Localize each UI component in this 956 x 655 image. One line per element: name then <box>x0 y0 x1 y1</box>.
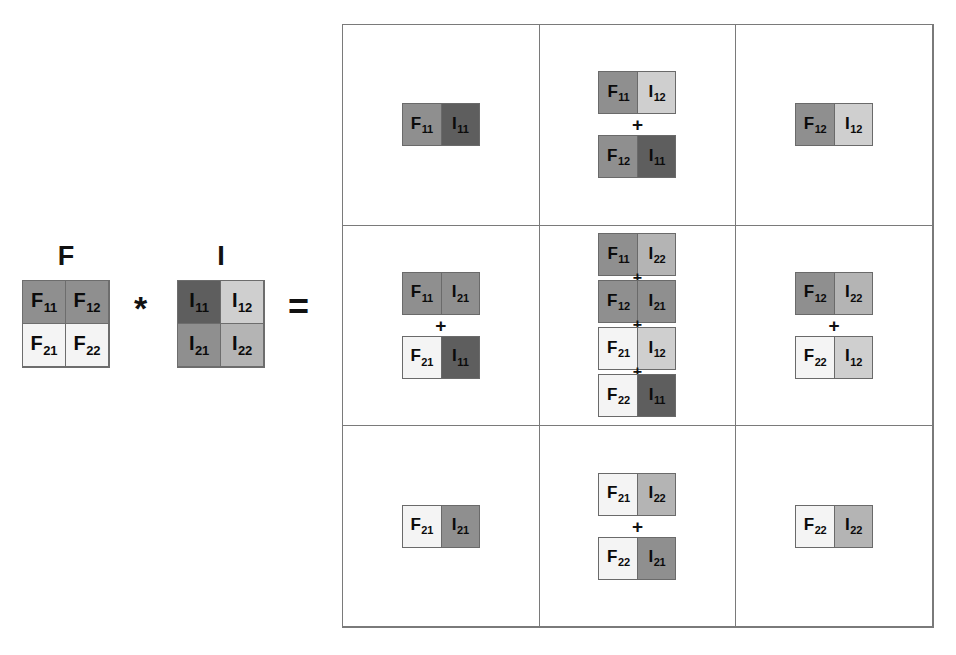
kernel-label: F <box>22 243 110 270</box>
symbol-I22: I22 <box>648 484 665 505</box>
symbol-I21: I21 <box>648 292 665 313</box>
kernel-cell-F21: F21 <box>22 323 66 367</box>
result-cell-top-left: F11I11 <box>342 24 540 226</box>
convolution-operands: F F11F12F21F22 * I I11I12I21I22 = <box>0 0 340 655</box>
result-cell-middle-left: F11I21+F21I11 <box>342 225 540 427</box>
symbol-F21: F21 <box>607 339 630 360</box>
symbol-I11: I11 <box>649 386 665 407</box>
symbol-I12: I12 <box>648 339 665 360</box>
symbol-I11: I11 <box>452 115 468 136</box>
term-image-half: I12 <box>637 72 675 113</box>
symbol-F21: F21 <box>31 333 58 357</box>
term-image-half: I11 <box>637 375 675 416</box>
term-stack: F11I12+F12I11 <box>598 71 676 178</box>
term-kernel-half: F11 <box>599 234 637 275</box>
term-stack: F11I11 <box>402 103 480 146</box>
term-image-half: I21 <box>637 538 675 579</box>
kernel-matrix: F11F12F21F22 <box>22 280 110 368</box>
kernel-cell-F12: F12 <box>65 280 109 324</box>
image-cell-I22: I22 <box>220 323 264 367</box>
symbol-I21: I21 <box>648 548 665 569</box>
image-cell-I12: I12 <box>220 280 264 324</box>
image-cell-I21: I21 <box>177 323 221 367</box>
term-image-half: I22 <box>637 474 675 515</box>
term-kernel-half: F12 <box>796 104 834 145</box>
symbol-I22: I22 <box>648 245 665 266</box>
product-term-F22-I11: F22I11 <box>598 374 676 417</box>
result-cell-middle-center: F11I22+F12I21+F21I12+F22I11 <box>539 225 737 427</box>
symbol-F21: F21 <box>607 484 630 505</box>
symbol-I12: I12 <box>845 115 862 136</box>
product-term-F11-I21: F11I21 <box>402 272 480 315</box>
symbol-I22: I22 <box>845 283 862 304</box>
term-stack: F21I21 <box>402 505 480 548</box>
product-term-F22-I12: F22I12 <box>795 336 873 379</box>
image-cell-I11: I11 <box>177 280 221 324</box>
symbol-I21: I21 <box>189 333 209 357</box>
equals-operator: = <box>288 289 309 325</box>
product-term-F21-I12: F21I12 <box>598 327 676 370</box>
product-term-F21-I21: F21I21 <box>402 505 480 548</box>
symbol-F22: F22 <box>804 516 827 537</box>
symbol-F22: F22 <box>607 386 630 407</box>
symbol-F12: F12 <box>607 147 630 168</box>
symbol-I11: I11 <box>452 347 468 368</box>
plus-sign: + <box>632 115 643 134</box>
symbol-I21: I21 <box>452 283 469 304</box>
kernel-cell-F11: F11 <box>22 280 66 324</box>
term-kernel-half: F22 <box>599 375 637 416</box>
term-stack: F21I22+F22I21 <box>598 473 676 580</box>
term-kernel-half: F11 <box>403 273 441 314</box>
term-stack: F12I12 <box>795 103 873 146</box>
symbol-I11: I11 <box>649 147 665 168</box>
term-stack: F12I22+F22I12 <box>795 272 873 379</box>
term-kernel-half: F22 <box>599 538 637 579</box>
symbol-F11: F11 <box>411 283 433 304</box>
product-term-F12-I12: F12I12 <box>795 103 873 146</box>
product-term-F11-I12: F11I12 <box>598 71 676 114</box>
symbol-F22: F22 <box>804 347 827 368</box>
symbol-I22: I22 <box>232 333 252 357</box>
product-term-F12-I11: F12I11 <box>598 135 676 178</box>
product-term-F12-I21: F12I21 <box>598 280 676 323</box>
term-image-half: I12 <box>834 104 872 145</box>
term-image-half: I22 <box>834 273 872 314</box>
term-kernel-half: F12 <box>599 281 637 322</box>
term-kernel-half: F22 <box>796 337 834 378</box>
symbol-F21: F21 <box>410 347 433 368</box>
term-image-half: I21 <box>441 273 479 314</box>
symbol-I12: I12 <box>845 347 862 368</box>
term-kernel-half: F12 <box>796 273 834 314</box>
plus-sign: + <box>829 316 840 335</box>
term-stack: F22I22 <box>795 505 873 548</box>
product-term-F21-I22: F21I22 <box>598 473 676 516</box>
term-kernel-half: F11 <box>599 72 637 113</box>
term-kernel-half: F21 <box>403 337 441 378</box>
symbol-F12: F12 <box>607 292 630 313</box>
symbol-I21: I21 <box>452 516 469 537</box>
term-image-half: I11 <box>441 104 479 145</box>
symbol-F21: F21 <box>410 516 433 537</box>
symbol-F11: F11 <box>411 115 433 136</box>
symbol-F12: F12 <box>804 115 827 136</box>
result-cell-bottom-left: F21I21 <box>342 425 540 627</box>
plus-sign: + <box>435 316 446 335</box>
product-term-F21-I11: F21I11 <box>402 336 480 379</box>
result-cell-bottom-right: F22I22 <box>735 425 933 627</box>
term-kernel-half: F11 <box>403 104 441 145</box>
multiply-operator: * <box>134 291 147 325</box>
symbol-I22: I22 <box>845 516 862 537</box>
symbol-F22: F22 <box>607 548 630 569</box>
symbol-F11: F11 <box>31 290 57 314</box>
term-stack: F11I21+F21I11 <box>402 272 480 379</box>
term-image-half: I12 <box>637 328 675 369</box>
term-image-half: I22 <box>637 234 675 275</box>
symbol-F11: F11 <box>607 83 629 104</box>
symbol-I12: I12 <box>232 290 252 314</box>
symbol-I12: I12 <box>648 83 665 104</box>
term-image-half: I22 <box>834 506 872 547</box>
result-cell-top-right: F12I12 <box>735 24 933 226</box>
term-image-half: I11 <box>441 337 479 378</box>
term-image-half: I21 <box>637 281 675 322</box>
term-kernel-half: F22 <box>796 506 834 547</box>
